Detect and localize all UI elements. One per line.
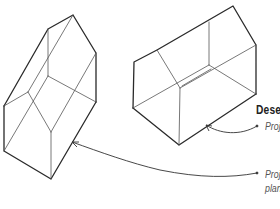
diagram-canvas xyxy=(0,0,280,209)
callout-arrow-1 xyxy=(206,125,258,133)
bullet-dot xyxy=(256,172,258,174)
callout-label-2-line1: Proj xyxy=(265,169,280,180)
callout-arrow-2 xyxy=(72,142,258,176)
callout-label-2-line2: plan xyxy=(265,183,280,194)
right-house-wireframe xyxy=(133,6,256,145)
bullet-dot xyxy=(256,125,258,127)
diagram-heading: Dese xyxy=(256,104,280,116)
left-house-wireframe xyxy=(4,15,96,179)
callout-label-1: Proj xyxy=(265,121,280,132)
